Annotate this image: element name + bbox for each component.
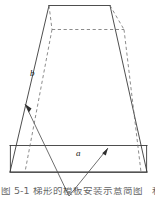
hidden-corner-link-right [110, 6, 124, 30]
caption-line-2: 和检 [152, 187, 155, 196]
left-slant-edge [10, 6, 49, 173]
leader-line-left [25, 104, 69, 196]
figure-caption: 图 5-1 梯形的模板安装示意简图和检 [1, 187, 155, 196]
arrowhead-left [25, 104, 32, 113]
caption-line-1: 图 5-1 梯形的模板安装示意简图 [1, 187, 143, 196]
leader-lines [25, 104, 108, 196]
hidden-corner-link-left [49, 6, 52, 30]
hidden-dashed-lines [25, 6, 141, 173]
figure-container: b a 图 5-1 梯形的模板安装示意简图和检 [0, 0, 155, 201]
dimension-label-b: b [30, 68, 35, 78]
hidden-right-slant [124, 30, 141, 173]
right-slant-edge [110, 6, 147, 173]
caption-strip: 图 5-1 梯形的模板安装示意简图和检 [0, 187, 155, 201]
dimension-label-a: a [76, 148, 81, 158]
trapezoid-prism-diagram [0, 0, 155, 201]
